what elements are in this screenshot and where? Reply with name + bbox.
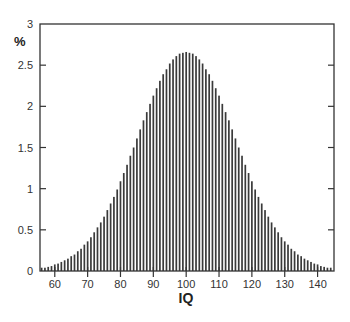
bar: [261, 203, 263, 271]
bar: [51, 266, 53, 271]
y-axis-label: %: [14, 34, 26, 49]
bar: [166, 69, 168, 271]
bar: [152, 96, 154, 271]
bar: [290, 249, 292, 271]
bar: [267, 217, 269, 271]
bar: [143, 120, 145, 271]
bar: [162, 74, 164, 271]
bar: [300, 256, 302, 271]
bar: [84, 245, 86, 271]
bar: [218, 96, 220, 271]
bar: [185, 52, 187, 271]
bar: [70, 256, 72, 271]
bar: [244, 165, 246, 271]
y-tick-label: 1: [27, 183, 33, 195]
bar: [80, 249, 82, 271]
bar: [182, 53, 184, 271]
y-tick-label: 2: [27, 100, 33, 112]
bar: [310, 262, 312, 271]
bar: [77, 251, 79, 271]
bar: [225, 112, 227, 271]
bar: [313, 264, 315, 271]
iq-distribution-chart: 00.511.522.53 60708090100110120130140 % …: [0, 0, 350, 322]
bar: [274, 227, 276, 271]
bar: [271, 222, 273, 271]
x-axis-label: IQ: [179, 290, 194, 306]
bar: [64, 260, 66, 271]
y-tick-label: 3: [27, 18, 33, 30]
bar: [228, 120, 230, 271]
y-tick-label: 0: [27, 265, 33, 277]
bar: [208, 74, 210, 271]
bar: [284, 241, 286, 271]
x-tick-label: 80: [114, 278, 126, 290]
bar: [90, 237, 92, 271]
bar: [103, 217, 105, 271]
bar: [139, 129, 141, 271]
x-tick-label: 60: [49, 278, 61, 290]
y-tick-label: 1.5: [18, 142, 33, 154]
bar: [156, 88, 158, 271]
bar: [235, 138, 237, 271]
x-tick-label: 70: [82, 278, 94, 290]
y-tick-label: 0.5: [18, 224, 33, 236]
bar: [254, 189, 256, 271]
bar: [57, 264, 59, 271]
bar: [304, 259, 306, 271]
x-tick-label: 130: [276, 278, 294, 290]
bar: [97, 227, 99, 271]
x-tick-label: 140: [308, 278, 326, 290]
bar: [294, 251, 296, 271]
bar: [215, 88, 217, 271]
bar: [110, 203, 112, 271]
bar: [221, 104, 223, 271]
bar: [93, 232, 95, 271]
bar: [123, 173, 125, 271]
bar: [100, 222, 102, 271]
bar: [61, 262, 63, 271]
bar: [120, 181, 122, 271]
bar: [198, 59, 200, 271]
bar: [179, 54, 181, 271]
bar: [238, 148, 240, 272]
x-tick-label: 100: [177, 278, 195, 290]
bar-series: [41, 52, 332, 271]
bar: [307, 260, 309, 271]
bar: [320, 266, 322, 271]
bar: [287, 245, 289, 271]
bar: [297, 255, 299, 271]
bar: [241, 156, 243, 271]
bar: [231, 129, 233, 271]
bar: [248, 173, 250, 271]
bar: [251, 181, 253, 271]
bar: [281, 237, 283, 271]
bar: [202, 64, 204, 271]
bar: [129, 156, 131, 271]
bar: [159, 81, 161, 271]
bar: [172, 59, 174, 271]
y-tick-label: 2.5: [18, 59, 33, 71]
bar: [264, 210, 266, 271]
x-tick-label: 110: [210, 278, 228, 290]
bar: [126, 165, 128, 271]
bar: [189, 53, 191, 271]
bar: [258, 197, 260, 271]
bar: [195, 56, 197, 271]
bar: [277, 232, 279, 271]
bar: [87, 241, 89, 271]
x-tick-label: 120: [243, 278, 261, 290]
bar: [74, 255, 76, 271]
bar: [212, 81, 214, 271]
bar: [116, 189, 118, 271]
bar: [133, 148, 135, 272]
x-tick-label: 90: [147, 278, 159, 290]
bar: [149, 104, 151, 271]
bar: [106, 210, 108, 271]
bar: [175, 56, 177, 271]
bar: [67, 259, 69, 271]
bar: [205, 69, 207, 271]
bar: [113, 197, 115, 271]
bar: [136, 138, 138, 271]
bar: [169, 64, 171, 271]
bar: [192, 54, 194, 271]
